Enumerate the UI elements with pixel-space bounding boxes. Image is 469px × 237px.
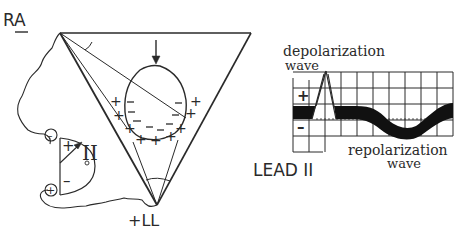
lead-ii-title: LEAD II [253, 160, 313, 180]
svg-text:+: + [135, 131, 147, 147]
ll-lead-wire [40, 190, 157, 208]
depolarization-label-line1: depolarization [283, 43, 385, 59]
svg-text:+: + [113, 107, 125, 123]
galvanometer-bottom-terminal: + [46, 184, 55, 197]
ecg-lead-ii-diagram: RA II + + + + + + + + + [0, 0, 469, 237]
qrs-spike [312, 71, 336, 119]
svg-text:+: + [175, 120, 187, 136]
galvanometer-minus-label: – [63, 172, 71, 190]
ra-label: RA [3, 10, 26, 30]
ecg-positive-label: + [297, 87, 310, 105]
ecg-trace-band-2 [334, 103, 453, 139]
depolarization-label-line2: wave [285, 58, 319, 73]
down-arrow-icon [152, 40, 160, 64]
ra-lead-wire [18, 33, 60, 144]
positive-charges: + + + + + + + + + [110, 93, 202, 148]
ecg-negative-label: – [297, 118, 305, 136]
galvanometer-top-terminal: – [47, 129, 53, 142]
repolarization-label-line2: wave [387, 156, 421, 171]
svg-text:+: + [190, 93, 202, 109]
ll-label: +LL [128, 211, 159, 230]
svg-text:+: + [150, 132, 162, 148]
galvanometer-plus-label: + [62, 137, 75, 155]
svg-text:+: + [124, 120, 136, 136]
lead-ii-axis-label: II [82, 141, 98, 165]
